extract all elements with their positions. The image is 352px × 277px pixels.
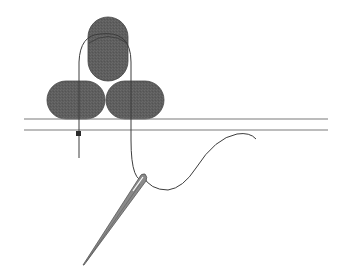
cord-bottom-left (47, 81, 105, 119)
needle (83, 174, 147, 265)
cord-bottom-right (106, 81, 164, 119)
thread-tail (143, 134, 256, 190)
diagram-svg (0, 0, 352, 277)
cord-top (88, 17, 128, 81)
knot (76, 131, 81, 136)
sewing-diagram (0, 0, 352, 277)
